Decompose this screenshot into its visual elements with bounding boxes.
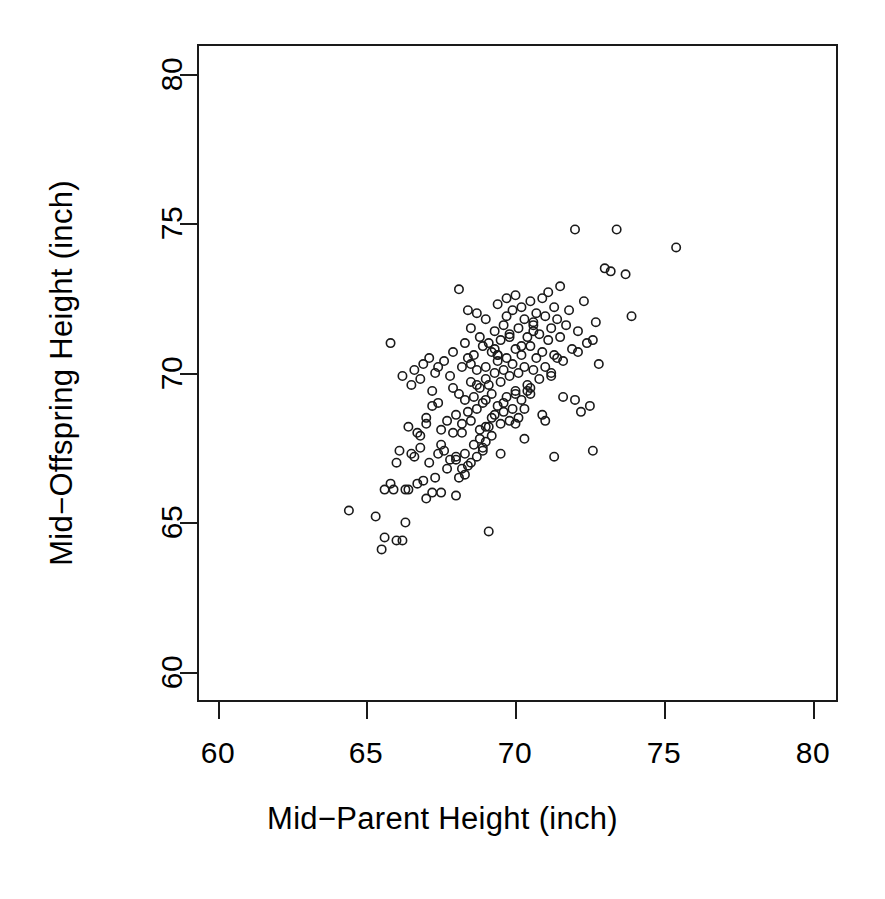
x-tick-75 <box>664 702 666 719</box>
x-tick-label-60: 60 <box>201 738 235 768</box>
x-tick-80 <box>813 702 815 719</box>
y-axis-title: Mid−Offspring Height (inch) <box>43 180 81 566</box>
y-tick-label-80: 80 <box>157 74 187 108</box>
plot-area-box <box>197 44 838 702</box>
y-tick-label-60: 60 <box>157 672 187 706</box>
x-axis-title: Mid−Parent Height (inch) <box>0 800 885 838</box>
y-tick-label-65: 65 <box>157 522 187 556</box>
y-tick-label-70: 70 <box>157 373 187 407</box>
x-tick-70 <box>515 702 517 719</box>
y-tick-label-75: 75 <box>157 223 187 257</box>
scatter-plot-figure: 80 75 70 65 60 60 65 70 75 80 Mid−Parent… <box>0 0 885 899</box>
x-tick-label-70: 70 <box>498 738 532 768</box>
y-tick-label-60-text: 60 <box>157 655 187 689</box>
x-tick-label-75: 75 <box>647 738 681 768</box>
x-tick-65 <box>366 702 368 719</box>
y-tick-label-80-text: 80 <box>157 57 187 91</box>
y-tick-label-75-text: 75 <box>157 206 187 240</box>
x-tick-60 <box>218 702 220 719</box>
x-tick-label-80: 80 <box>796 738 830 768</box>
y-tick-label-70-text: 70 <box>157 356 187 390</box>
x-tick-label-65: 65 <box>349 738 383 768</box>
y-tick-label-65-text: 65 <box>157 505 187 539</box>
